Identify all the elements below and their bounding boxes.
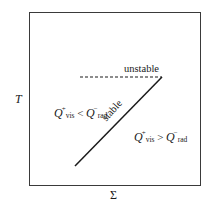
unstable-label: unstable [124,64,159,75]
subscript: rad [178,135,188,144]
subscript: vis [146,135,155,144]
operator: < [77,107,83,119]
region-label-right: Q+vis > Q−rad [134,130,187,144]
stable-solid-line [75,77,162,166]
subscript: rad [98,111,108,120]
subscript: vis [66,111,75,120]
operator: > [157,131,163,143]
y-axis-label: T [15,93,22,105]
x-axis-label: Σ [110,189,117,201]
region-label-left: Q+vis < Q−rad [54,106,107,120]
curves [0,0,209,208]
